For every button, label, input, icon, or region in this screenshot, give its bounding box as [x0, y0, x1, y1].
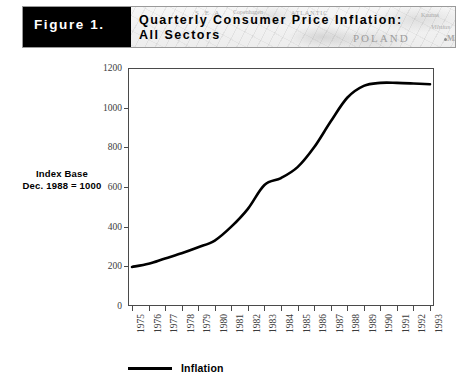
figure-number-block: Figure 1. [23, 7, 131, 47]
x-tick-mark-1992 [413, 306, 414, 311]
x-tick-label-1991: 1991 [401, 314, 411, 333]
legend-swatch-inflation [128, 367, 172, 370]
y-tick-mark-1000 [124, 108, 128, 109]
x-tick-mark-1987 [331, 306, 332, 311]
x-tick-label-1979: 1979 [202, 314, 212, 333]
y-tick-label-1200: 1200 [103, 63, 122, 73]
y-tick-label-600: 600 [108, 182, 122, 192]
y-tick-label-400: 400 [108, 222, 122, 232]
map-city-dot-icon [444, 38, 447, 41]
figure-title: Quarterly Consumer Price Inflation: All … [139, 13, 403, 43]
legend-label-inflation: Inflation [181, 362, 224, 374]
x-tick-mark-1991 [397, 306, 398, 311]
chart-legend: Inflation [128, 362, 224, 374]
chart-plot-area: 020040060080010001200 197519761977197819… [128, 68, 434, 306]
x-tick-mark-1982 [248, 306, 249, 311]
y-tick-label-200: 200 [108, 261, 122, 271]
x-tick-mark-1989 [364, 306, 365, 311]
x-tick-mark-1985 [298, 306, 299, 311]
x-tick-label-1987: 1987 [335, 314, 345, 333]
x-tick-label-1980: 1980 [219, 314, 229, 333]
x-tick-mark-1975 [132, 306, 133, 311]
x-tick-label-1977: 1977 [169, 314, 179, 333]
x-tick-label-1982: 1982 [252, 314, 262, 333]
figure-number-label: Figure 1. [34, 17, 105, 32]
x-tick-mark-1986 [314, 306, 315, 311]
figure-title-line-2: All Sectors [139, 28, 403, 43]
x-tick-label-1978: 1978 [186, 314, 196, 333]
x-tick-label-1990: 1990 [384, 314, 394, 333]
y-tick-label-0: 0 [117, 301, 122, 311]
x-tick-label-1988: 1988 [351, 314, 361, 333]
figure-title-banner: S E A Copenhagen ATLANTIC POLAND Vilnius… [22, 6, 456, 48]
x-tick-mark-1979 [198, 306, 199, 311]
y-tick-mark-400 [124, 227, 128, 228]
index-base-line-2: Dec. 1988 = 1000 [22, 180, 101, 191]
index-base-line-1: Index Base [36, 168, 88, 179]
x-tick-mark-1993 [430, 306, 431, 311]
x-tick-mark-1988 [347, 306, 348, 311]
map-label-lithuania: LITHUANIA [455, 11, 456, 17]
x-tick-mark-1976 [149, 306, 150, 311]
x-tick-mark-1984 [281, 306, 282, 311]
x-tick-mark-1977 [165, 306, 166, 311]
x-tick-label-1989: 1989 [368, 314, 378, 333]
x-tick-label-1984: 1984 [285, 314, 295, 333]
x-tick-label-1976: 1976 [153, 314, 163, 333]
x-tick-mark-1978 [182, 306, 183, 311]
x-tick-mark-1990 [380, 306, 381, 311]
index-base-annotation: Index Base Dec. 1988 = 1000 [6, 168, 118, 192]
x-tick-label-1981: 1981 [235, 314, 245, 333]
y-tick-label-1000: 1000 [103, 103, 122, 113]
x-tick-mark-1981 [231, 306, 232, 311]
x-tick-label-1992: 1992 [417, 314, 427, 333]
y-tick-label-800: 800 [108, 142, 122, 152]
x-tick-mark-1983 [264, 306, 265, 311]
x-tick-mark-1980 [215, 306, 216, 311]
y-tick-mark-200 [124, 266, 128, 267]
x-tick-label-1993: 1993 [434, 314, 444, 333]
inflation-line-series [128, 68, 434, 306]
x-tick-label-1975: 1975 [136, 314, 146, 333]
x-tick-label-1985: 1985 [302, 314, 312, 333]
figure-title-line-1: Quarterly Consumer Price Inflation: [139, 13, 403, 27]
y-tick-mark-600 [124, 187, 128, 188]
x-tick-label-1983: 1983 [268, 314, 278, 333]
x-tick-label-1986: 1986 [318, 314, 328, 333]
y-tick-mark-800 [124, 147, 128, 148]
